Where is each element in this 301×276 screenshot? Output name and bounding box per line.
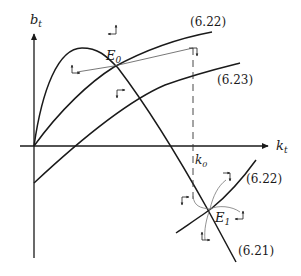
k0-label: k0 xyxy=(195,153,207,169)
label-6-23: (6.23) xyxy=(217,73,253,87)
e0-label: E0 xyxy=(105,48,122,65)
y-axis-label: bt xyxy=(30,12,42,29)
curve-6-23 xyxy=(34,63,240,183)
label-6-21: (6.21) xyxy=(238,244,274,258)
label-6-22-lower: (6.22) xyxy=(246,172,282,186)
trajectory-e0 xyxy=(77,48,193,72)
phase-diagram: bt kt xyxy=(0,0,301,276)
e1-label: E1 xyxy=(214,210,230,227)
label-6-22-upper: (6.22) xyxy=(190,15,226,29)
x-axis-label: kt xyxy=(276,138,288,155)
curve-6-22-upper xyxy=(34,32,212,146)
phase-arrows xyxy=(72,25,243,240)
